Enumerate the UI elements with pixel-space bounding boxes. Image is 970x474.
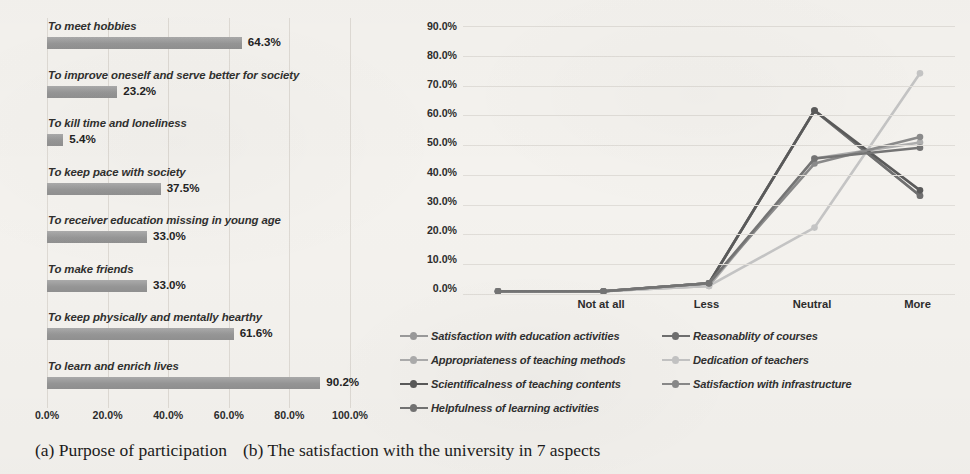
legend-dot-icon xyxy=(410,356,417,363)
bar-value-label: 61.6% xyxy=(240,326,273,339)
legend-label: Appropriateness of teaching methods xyxy=(431,354,625,366)
bar-row: To kill time and loneliness5.4% xyxy=(47,117,350,166)
bar-row: To improve oneself and serve better for … xyxy=(47,69,350,118)
legend-marker-icon xyxy=(662,379,690,389)
line-y-tick-label: 0.0% xyxy=(433,282,457,294)
figure-captions: (a) Purpose of participation(b) The sati… xyxy=(0,440,970,470)
bar-row: To learn and enrich lives90.2% xyxy=(47,360,350,409)
line-x-category-label: Neutral xyxy=(793,298,832,310)
bar-row: To keep physically and mentally hearthy6… xyxy=(47,311,350,360)
bar-value-label: 33.0% xyxy=(153,229,186,242)
bar-x-tick-label: 80.0% xyxy=(274,409,304,421)
line-chart-x-axis: Not at allLessNeutralMoreVery xyxy=(463,298,955,318)
line-x-category-label: More xyxy=(904,298,931,310)
legend-item-6: Helpfulness of learning activities xyxy=(400,402,599,414)
line-series-6 xyxy=(495,144,924,294)
line-data-point xyxy=(811,155,818,162)
legend-label: Helpfulness of learning activities xyxy=(431,402,599,414)
legend-item-3: Dedication of teachers xyxy=(662,354,809,366)
line-data-point xyxy=(811,224,818,231)
line-series-1 xyxy=(495,107,924,294)
line-gridline-40 xyxy=(463,175,955,176)
legend-item-5: Satisfaction with infrastructure xyxy=(662,378,852,390)
bar-row: To keep pace with society37.5% xyxy=(47,166,350,215)
legend-marker-icon xyxy=(400,331,428,341)
bar-category-label: To kill time and loneliness xyxy=(48,117,187,129)
bar-category-label: To receiver education missing in young a… xyxy=(48,214,281,226)
bar-category-label: To meet hobbies xyxy=(48,20,137,32)
figure-caption-a: (a) Purpose of participation xyxy=(35,440,227,461)
line-y-tick-label: 20.0% xyxy=(427,224,457,236)
line-chart-plot-area xyxy=(463,26,955,294)
bar-x-tick-label: 40.0% xyxy=(153,409,183,421)
figure-caption-b: (b) The satisfaction with the university… xyxy=(243,440,600,461)
line-gridline-30 xyxy=(463,205,955,206)
line-series-3 xyxy=(495,70,924,295)
line-chart-satisfaction: 0.0%10.0%20.0%30.0%40.0%50.0%60.0%70.0%8… xyxy=(360,0,970,434)
bar-value-label: 90.2% xyxy=(326,375,359,388)
bar-category-label: To keep pace with society xyxy=(48,166,186,178)
bar-value-label: 64.3% xyxy=(248,35,281,48)
legend-item-0: Satisfaction with education activities xyxy=(400,330,619,342)
legend-label: Reasonablity of courses xyxy=(693,330,818,342)
bar-chart-purpose-of-participation: To meet hobbies64.3%To improve oneself a… xyxy=(0,0,360,434)
line-y-tick-label: 50.0% xyxy=(427,136,457,148)
legend-dot-icon xyxy=(410,332,417,339)
bar-category-label: To learn and enrich lives xyxy=(48,360,179,372)
bar xyxy=(47,328,234,340)
bar-gridline-100 xyxy=(350,18,351,408)
line-gridline-70 xyxy=(463,86,955,87)
bar-x-tick-label: 0.0% xyxy=(35,409,59,421)
line-gridline-0 xyxy=(463,294,955,295)
line-data-point xyxy=(917,134,924,141)
line-data-point xyxy=(811,107,818,114)
bar xyxy=(47,280,147,292)
line-data-point xyxy=(706,280,713,287)
bar-value-label: 5.4% xyxy=(69,132,95,145)
line-x-category-label: Less xyxy=(694,298,720,310)
line-y-tick-label: 30.0% xyxy=(427,195,457,207)
line-y-tick-label: 90.0% xyxy=(427,20,457,32)
line-gridline-10 xyxy=(463,264,955,265)
line-y-tick-label: 40.0% xyxy=(427,166,457,178)
line-chart-series-svg xyxy=(463,26,955,294)
bar-value-label: 33.0% xyxy=(153,278,186,291)
legend-dot-icon xyxy=(410,380,417,387)
legend-marker-icon xyxy=(662,331,690,341)
bar-x-tick-label: 60.0% xyxy=(214,409,244,421)
bar xyxy=(47,231,147,243)
legend-dot-icon xyxy=(672,356,679,363)
line-gridline-50 xyxy=(463,145,955,146)
bar-row: To make friends33.0% xyxy=(47,263,350,312)
line-gridline-60 xyxy=(463,115,955,116)
line-data-point xyxy=(917,70,924,77)
legend-dot-icon xyxy=(410,404,417,411)
bar-category-label: To make friends xyxy=(48,263,133,275)
bar-value-label: 37.5% xyxy=(167,181,200,194)
bar-row: To receiver education missing in young a… xyxy=(47,214,350,263)
line-y-tick-label: 80.0% xyxy=(427,49,457,61)
bar xyxy=(47,37,242,49)
line-series-5 xyxy=(495,134,924,295)
line-y-tick-label: 60.0% xyxy=(427,107,457,119)
line-series-4 xyxy=(495,107,924,294)
legend-label: Dedication of teachers xyxy=(693,354,809,366)
bar-category-label: To keep physically and mentally hearthy xyxy=(48,311,262,323)
bar xyxy=(47,183,161,195)
bar xyxy=(47,86,117,98)
bar-chart-plot-area: To meet hobbies64.3%To improve oneself a… xyxy=(47,18,350,408)
legend-item-4: Scientificalness of teaching contents xyxy=(400,378,621,390)
legend-marker-icon xyxy=(662,355,690,365)
legend-marker-icon xyxy=(400,379,428,389)
legend-label: Satisfaction with education activities xyxy=(431,330,619,342)
legend-item-2: Appropriateness of teaching methods xyxy=(400,354,625,366)
bar-row: To meet hobbies64.3% xyxy=(47,20,350,69)
line-chart-y-axis: 0.0%10.0%20.0%30.0%40.0%50.0%60.0%70.0%8… xyxy=(385,20,457,310)
bar-category-label: To improve oneself and serve better for … xyxy=(48,69,299,81)
line-gridline-20 xyxy=(463,234,955,235)
line-y-tick-label: 10.0% xyxy=(427,253,457,265)
line-chart-legend: Satisfaction with education activitiesRe… xyxy=(400,330,970,426)
legend-label: Satisfaction with infrastructure xyxy=(693,378,852,390)
bar-x-tick-label: 20.0% xyxy=(93,409,123,421)
line-series-0 xyxy=(495,107,924,294)
